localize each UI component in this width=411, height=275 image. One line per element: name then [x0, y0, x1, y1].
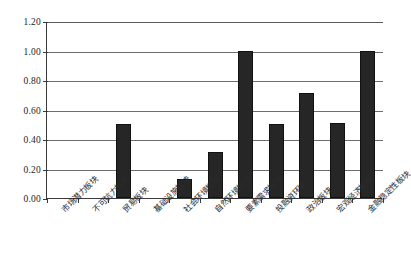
bar: [269, 124, 284, 198]
x-axis-tick: [383, 198, 384, 203]
x-axis-tick: [230, 198, 231, 203]
y-axis-tick: [43, 81, 48, 82]
x-axis-tick: [291, 198, 292, 203]
bar: [208, 152, 223, 198]
bar: [360, 51, 375, 199]
x-axis-tick: [78, 198, 79, 203]
bar: [238, 51, 253, 199]
gridline: [47, 52, 383, 53]
bar: [299, 93, 314, 198]
y-axis-tick-label: 1.00: [24, 47, 41, 57]
y-axis-tick: [43, 52, 48, 53]
x-axis-tick: [352, 198, 353, 203]
x-axis-tick: [47, 198, 48, 203]
y-axis-tick-label: 0.60: [24, 106, 41, 116]
bar: [116, 124, 131, 198]
gridline: [47, 81, 383, 82]
gridline: [47, 111, 383, 112]
x-axis-tick: [322, 198, 323, 203]
y-axis-tick: [43, 22, 48, 23]
y-axis-tick: [43, 170, 48, 171]
y-axis-tick: [43, 111, 48, 112]
y-axis-tick-label: 0.40: [24, 135, 41, 145]
bar: [330, 123, 345, 198]
bar: [177, 179, 192, 198]
plot-area: 0.000.200.400.600.801.001.20: [46, 22, 382, 199]
x-axis-tick: [169, 198, 170, 203]
y-axis-tick-label: 0.00: [24, 194, 41, 204]
gridline: [47, 22, 383, 23]
y-axis-tick-label: 1.20: [24, 17, 41, 27]
y-axis-tick: [43, 140, 48, 141]
y-axis-tick-label: 0.80: [24, 76, 41, 86]
y-axis-tick-label: 0.20: [24, 165, 41, 175]
x-axis-tick: [139, 198, 140, 203]
x-axis-tick: [108, 198, 109, 203]
x-axis-tick: [261, 198, 262, 203]
x-axis-tick: [200, 198, 201, 203]
